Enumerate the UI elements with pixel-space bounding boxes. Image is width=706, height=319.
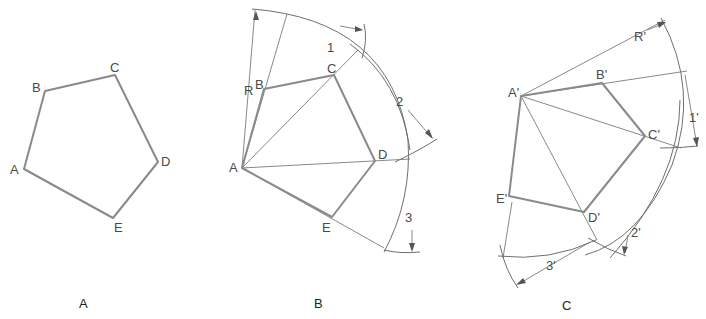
panel-c: R' 1' 2' 3' A' B' C' D' E': [496, 18, 699, 288]
chord-arc-1: [362, 24, 366, 58]
vertex-label-a: A: [229, 160, 238, 175]
chord-label-3: 3: [405, 210, 412, 225]
chord-label-1: 1': [689, 110, 699, 125]
chord-label-2: 2: [396, 94, 403, 109]
chord-label-1: 1: [327, 40, 334, 55]
vertex-label-e: E: [114, 220, 123, 235]
caption-a: A: [79, 296, 88, 311]
vertex-label-c: C': [648, 127, 660, 142]
arrow-icon: [693, 137, 699, 147]
pentagon-a: [24, 75, 158, 218]
vertex-label-d: D: [378, 147, 387, 162]
caption-c: C: [562, 298, 571, 313]
vertex-label-a: A': [508, 85, 519, 100]
vertex-label-d: D: [161, 154, 170, 169]
chord-label-3: 3': [546, 258, 556, 273]
panel-b: R 1 2 3 A B C D E: [229, 9, 437, 253]
vertex-label-b: B: [32, 80, 41, 95]
chord-arc-3: [384, 250, 420, 253]
vertex-label-e: E: [322, 220, 331, 235]
pentagon-b: [242, 75, 375, 217]
vertex-label-e: E': [496, 191, 507, 206]
radius-label: R': [634, 29, 646, 44]
arrow-icon: [622, 246, 628, 255]
arrow-icon: [253, 11, 259, 20]
pentagon-c: [509, 83, 645, 212]
vertex-label-b: B': [596, 67, 607, 82]
vertex-label-c: C: [110, 60, 119, 75]
panel-a: A B C D E: [10, 60, 170, 235]
chord-label-2: 2': [631, 225, 641, 240]
vertex-label-b: B: [255, 77, 264, 92]
vertex-label-a: A: [10, 162, 19, 177]
vertex-label-c: C: [327, 61, 336, 76]
arrow-icon: [516, 278, 526, 285]
ray-ad: [521, 96, 597, 240]
caption-b: B: [314, 296, 323, 311]
arrow-icon: [425, 129, 433, 139]
chord-arc-2: [395, 139, 437, 162]
vertex-label-d: D': [588, 210, 600, 225]
arc-segment-inner: [610, 100, 680, 258]
arrow-icon: [355, 26, 363, 32]
arc-segment-bottom: [498, 240, 596, 257]
arrow-icon: [409, 243, 415, 252]
ray-ae-ext: [503, 202, 512, 258]
chord-arc-3: [500, 245, 518, 288]
dim-line-3: [522, 242, 590, 282]
radius-label: R: [244, 83, 253, 98]
pentagon-transfer-diagram: A B C D E R 1 2 3 A B C: [0, 0, 706, 319]
